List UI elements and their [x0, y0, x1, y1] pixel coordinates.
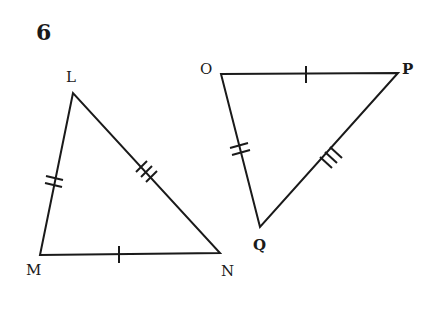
problem-number: 6 [36, 19, 51, 45]
vertex-label-p: P [402, 60, 413, 78]
triangle-lmn-outline [40, 93, 220, 255]
vertex-label-o: O [200, 60, 212, 78]
congruent-triangles-diagram: 6 L M N O [0, 0, 438, 317]
vertex-label-l: L [66, 68, 76, 86]
vertex-label-q: Q [253, 236, 266, 254]
vertex-label-n: N [221, 262, 234, 280]
vertex-label-m: M [26, 261, 41, 279]
triangle-lmn [40, 93, 220, 263]
triangle-opq [221, 66, 398, 227]
